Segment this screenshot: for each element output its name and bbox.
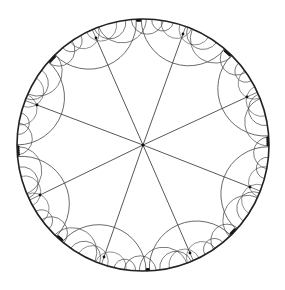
spoke-line bbox=[25, 101, 37, 105]
vertex-node bbox=[36, 104, 39, 107]
boundary-node bbox=[18, 153, 20, 155]
radial-line bbox=[96, 38, 143, 145]
boundary-node bbox=[57, 235, 59, 237]
center-node bbox=[141, 143, 144, 146]
geodesic-arc bbox=[99, 19, 146, 43]
vertex-node bbox=[182, 33, 185, 36]
vertex-node bbox=[39, 194, 42, 197]
boundary-node bbox=[18, 151, 20, 153]
geodesic-arc bbox=[169, 249, 199, 268]
boundary-node bbox=[266, 144, 268, 146]
spoke-line bbox=[30, 195, 40, 200]
boundary-node bbox=[17, 146, 19, 148]
vertex-node bbox=[246, 96, 249, 99]
boundary-node bbox=[228, 54, 230, 56]
geodesic-arc bbox=[187, 27, 217, 49]
geodesic-arc bbox=[220, 49, 246, 76]
geodesic-arc bbox=[203, 238, 222, 254]
radial-line bbox=[37, 105, 143, 145]
boundary-node bbox=[54, 56, 56, 58]
geodesic-arc bbox=[87, 22, 117, 41]
boundary-node bbox=[139, 19, 141, 21]
vertex-node bbox=[249, 186, 252, 189]
geodesic-arc bbox=[42, 217, 68, 243]
geodesic-arc bbox=[63, 35, 82, 51]
geodesic-arc bbox=[223, 195, 258, 236]
poincare-disk-canvas bbox=[0, 0, 285, 290]
geodesic-arc bbox=[55, 228, 97, 262]
radial-line bbox=[143, 34, 183, 145]
spoke-line bbox=[247, 92, 257, 97]
spoke-line bbox=[250, 187, 260, 191]
geodesic-arc bbox=[71, 241, 101, 263]
geodesic-arc bbox=[124, 256, 156, 271]
geodesic-arc bbox=[235, 63, 252, 82]
boundary-node bbox=[17, 148, 19, 150]
radial-line bbox=[104, 145, 143, 257]
radial-line bbox=[143, 145, 190, 253]
boundary-node bbox=[18, 150, 20, 152]
geodesic-arc bbox=[190, 29, 232, 63]
radial-line bbox=[143, 97, 247, 145]
boundary-node bbox=[230, 232, 232, 234]
geodesic-arc bbox=[36, 210, 53, 229]
geodesic-arc bbox=[48, 41, 75, 66]
boundary-node bbox=[146, 268, 148, 270]
vertex-node bbox=[103, 256, 106, 259]
hyperbolic-tiling-diagram bbox=[0, 0, 285, 290]
geodesic-arc bbox=[28, 55, 62, 97]
geodesic-arc bbox=[139, 247, 186, 271]
geodesic-arc bbox=[245, 99, 269, 146]
vertex-node bbox=[95, 37, 98, 40]
radial-line bbox=[143, 145, 250, 187]
vertex-node bbox=[189, 252, 192, 255]
